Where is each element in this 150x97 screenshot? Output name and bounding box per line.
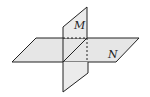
- label-m: M: [73, 19, 86, 32]
- label-n: N: [107, 48, 118, 61]
- plane-m-lower: [63, 62, 88, 92]
- intersecting-planes-figure: M N: [0, 0, 150, 97]
- planes-diagram: M N: [0, 0, 150, 97]
